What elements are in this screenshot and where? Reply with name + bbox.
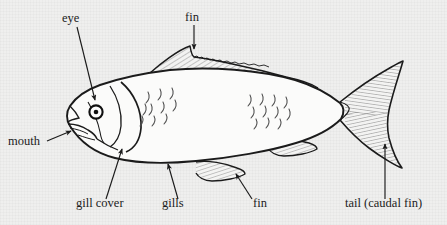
fin-anal-leader <box>236 174 252 199</box>
label-eye: eye <box>62 11 80 25</box>
label-gill-cover: gill cover <box>76 196 124 210</box>
mouth-leader <box>47 131 71 141</box>
label-fin-dorsal: fin <box>185 10 200 24</box>
label-gills: gills <box>162 196 184 210</box>
label-mouth: mouth <box>8 134 41 148</box>
fish-anatomy-diagram: eye fin mouth gill cover gills fin tail … <box>0 0 447 225</box>
eye-leader <box>77 27 95 100</box>
caudal-fin <box>335 55 415 172</box>
diagram-canvas: eye fin mouth gill cover gills fin tail … <box>0 0 447 225</box>
gills-leader <box>168 164 178 199</box>
label-tail: tail (caudal fin) <box>345 196 422 210</box>
eye <box>89 105 102 118</box>
label-fin-anal: fin <box>253 196 268 210</box>
